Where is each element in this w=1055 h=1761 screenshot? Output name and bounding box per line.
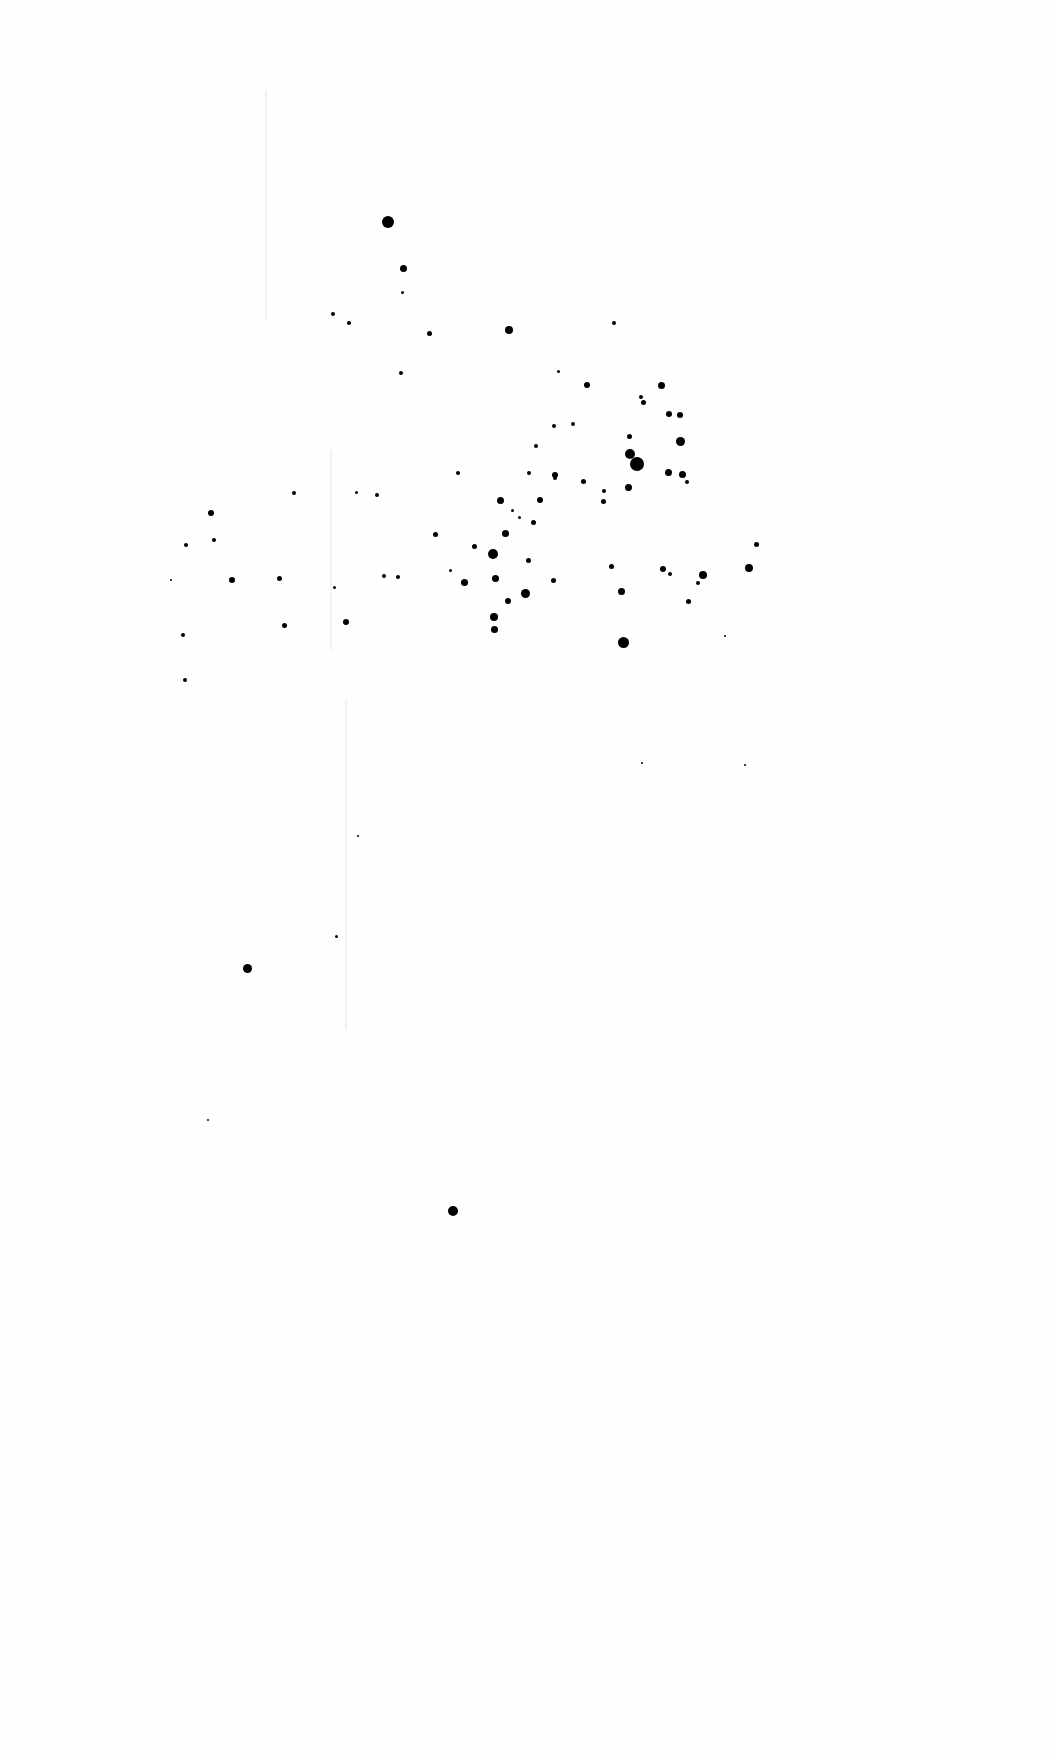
ink-speck bbox=[170, 579, 172, 581]
ink-speck bbox=[609, 564, 614, 569]
ink-speck bbox=[343, 619, 349, 625]
ink-speck bbox=[184, 543, 188, 547]
ink-speck bbox=[511, 509, 514, 512]
ink-speck bbox=[400, 265, 407, 272]
ink-speck bbox=[355, 491, 358, 494]
ink-speck bbox=[375, 493, 379, 497]
ink-speck bbox=[243, 964, 252, 973]
ink-speck bbox=[456, 471, 460, 475]
ink-speck bbox=[686, 599, 691, 604]
ink-speck bbox=[396, 575, 400, 579]
ink-speck bbox=[531, 520, 536, 525]
ink-speck bbox=[207, 1119, 209, 1121]
ink-speck bbox=[347, 321, 351, 325]
ink-speck bbox=[527, 471, 531, 475]
ink-speck bbox=[754, 542, 759, 547]
ink-speck bbox=[627, 434, 632, 439]
ink-speck bbox=[641, 762, 643, 764]
ink-speck bbox=[745, 564, 753, 572]
ink-speck bbox=[449, 569, 452, 572]
ink-speck bbox=[502, 530, 509, 537]
ink-speck bbox=[537, 497, 543, 503]
ink-speck bbox=[641, 400, 646, 405]
ink-speck bbox=[518, 516, 521, 519]
ink-speck bbox=[581, 479, 586, 484]
ink-speck bbox=[433, 532, 438, 537]
ink-speck bbox=[625, 484, 632, 491]
ink-speck bbox=[676, 437, 685, 446]
ink-speck bbox=[229, 577, 235, 583]
ink-speck bbox=[490, 613, 498, 621]
ink-speck bbox=[601, 499, 606, 504]
ink-speck bbox=[357, 835, 359, 837]
ink-speck bbox=[668, 572, 672, 576]
ink-speck bbox=[335, 935, 338, 938]
scan-streak bbox=[265, 90, 267, 320]
scan-streak bbox=[330, 450, 332, 650]
ink-speck bbox=[382, 574, 386, 578]
ink-speck bbox=[399, 371, 403, 375]
ink-speck bbox=[658, 382, 665, 389]
ink-speck bbox=[382, 216, 394, 228]
ink-speck bbox=[660, 566, 666, 572]
ink-speck bbox=[679, 471, 686, 478]
ink-speck bbox=[639, 395, 643, 399]
scanned-page bbox=[0, 0, 1055, 1761]
ink-speck bbox=[665, 469, 672, 476]
ink-speck bbox=[666, 411, 672, 417]
scan-streak bbox=[345, 700, 347, 1030]
ink-speck bbox=[488, 549, 498, 559]
ink-speck bbox=[212, 538, 216, 542]
ink-speck bbox=[208, 510, 214, 516]
ink-speck bbox=[557, 370, 560, 373]
ink-speck bbox=[526, 558, 531, 563]
ink-speck bbox=[584, 382, 590, 388]
ink-speck bbox=[685, 480, 689, 484]
ink-speck bbox=[492, 575, 499, 582]
ink-speck bbox=[331, 312, 335, 316]
ink-speck bbox=[277, 576, 282, 581]
ink-speck bbox=[333, 586, 336, 589]
ink-speck bbox=[521, 589, 530, 598]
ink-speck bbox=[491, 626, 498, 633]
ink-speck bbox=[552, 424, 556, 428]
ink-speck bbox=[282, 623, 287, 628]
ink-speck bbox=[744, 764, 746, 766]
ink-speck bbox=[618, 637, 629, 648]
ink-speck bbox=[183, 678, 187, 682]
ink-speck bbox=[571, 422, 575, 426]
ink-speck bbox=[696, 581, 700, 585]
ink-speck bbox=[472, 544, 477, 549]
ink-speck bbox=[497, 497, 504, 504]
ink-speck bbox=[292, 491, 296, 495]
ink-speck bbox=[602, 489, 606, 493]
ink-speck bbox=[553, 476, 557, 480]
ink-speck bbox=[677, 412, 683, 418]
ink-speck bbox=[401, 291, 404, 294]
ink-speck bbox=[699, 571, 707, 579]
ink-speck bbox=[448, 1206, 458, 1216]
ink-speck bbox=[427, 331, 432, 336]
ink-speck bbox=[551, 578, 556, 583]
ink-speck bbox=[630, 457, 644, 471]
ink-speck bbox=[181, 633, 185, 637]
ink-speck bbox=[618, 588, 625, 595]
ink-speck bbox=[505, 326, 513, 334]
ink-speck bbox=[724, 635, 726, 637]
ink-speck bbox=[612, 321, 616, 325]
ink-speck bbox=[461, 579, 468, 586]
ink-speck bbox=[505, 598, 511, 604]
ink-speck bbox=[534, 444, 538, 448]
